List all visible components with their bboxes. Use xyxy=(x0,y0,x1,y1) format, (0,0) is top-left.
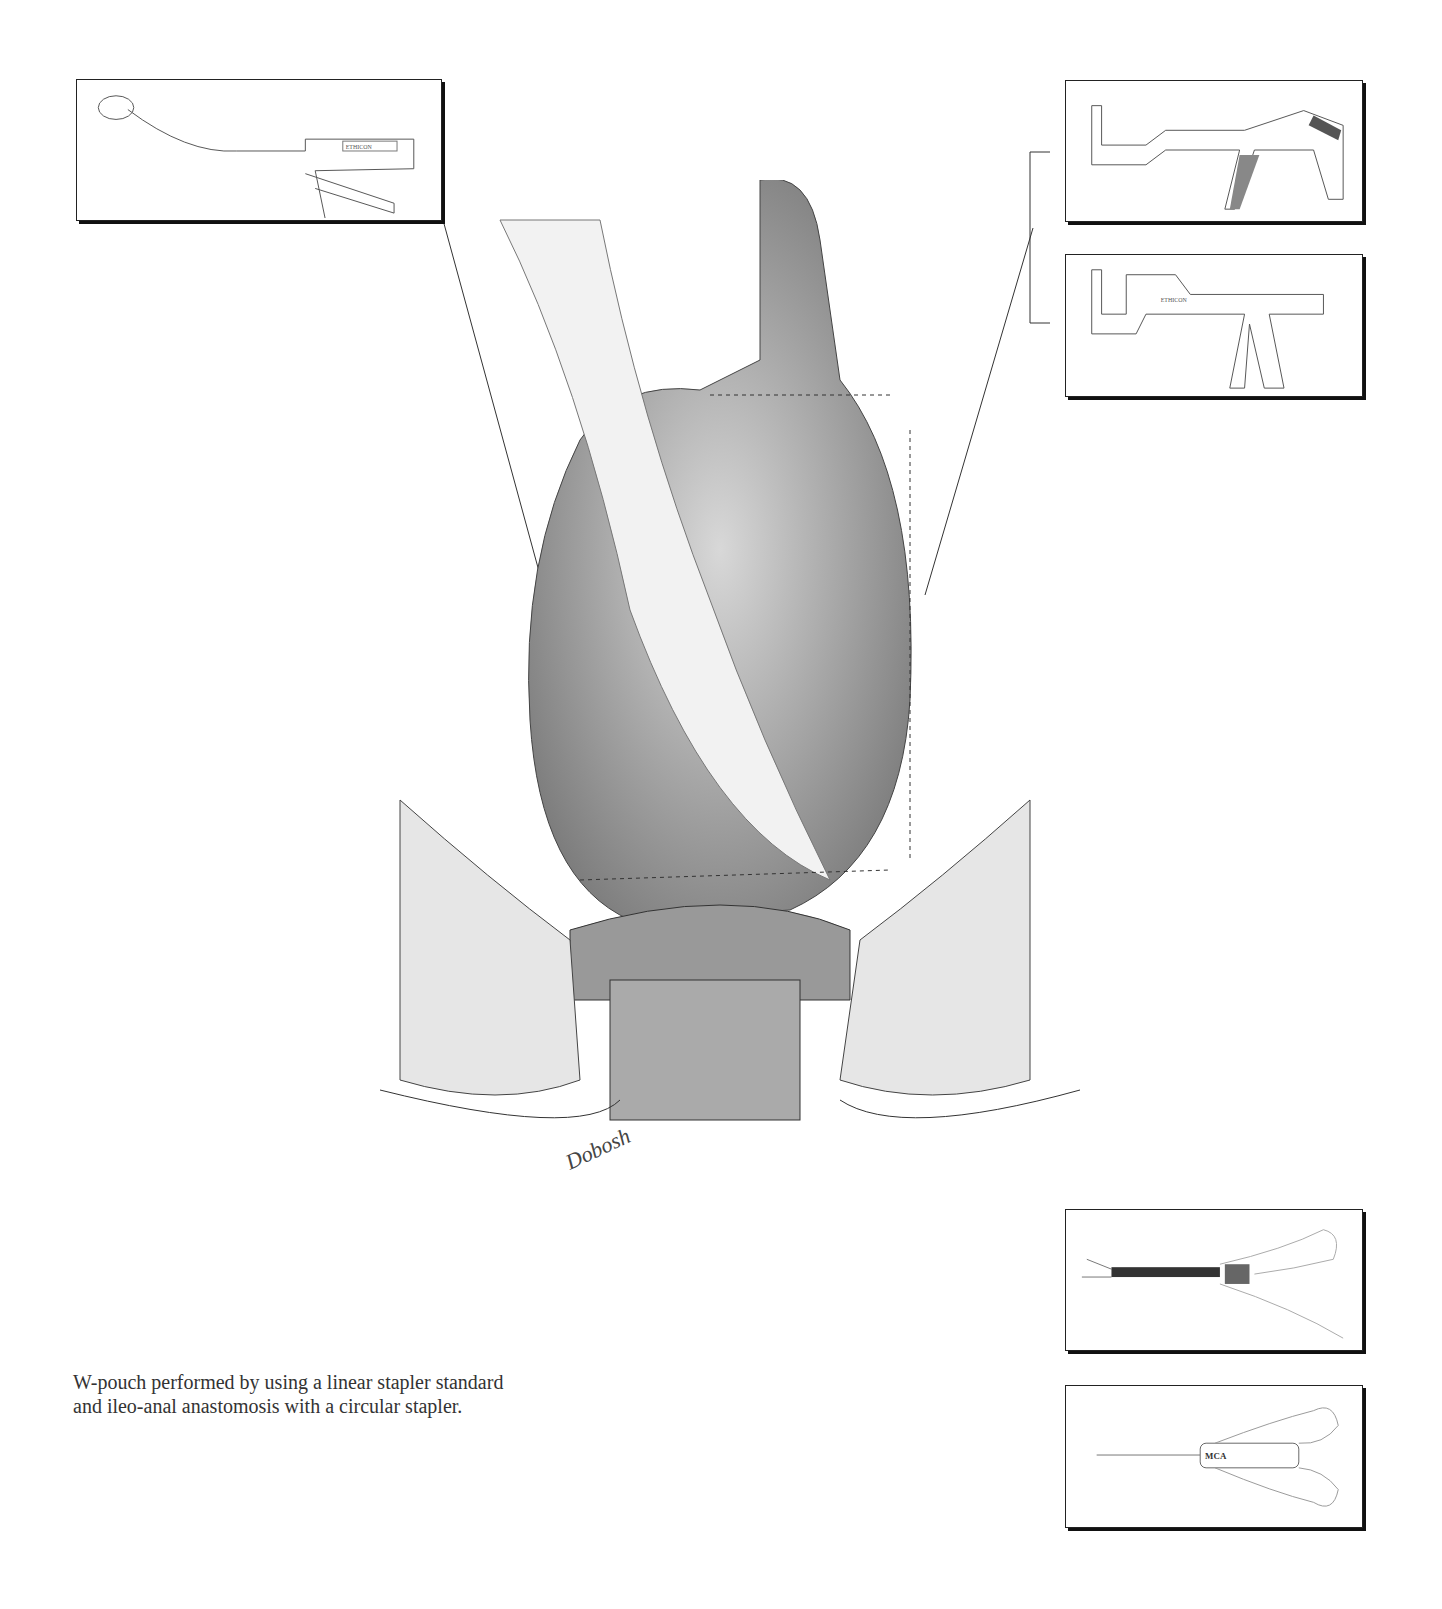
caption-line-2: and ileo-anal anastomosis with a circula… xyxy=(73,1394,633,1418)
inset-clip-applier-lc xyxy=(1065,1209,1363,1351)
clip-applier-icon: MCA xyxy=(1066,1386,1362,1527)
svg-text:ETHICON: ETHICON xyxy=(1161,297,1188,303)
clip-applier-icon xyxy=(1066,1210,1362,1350)
inset-linear-stapler-tx: ETHICON xyxy=(1065,254,1363,397)
inset-linear-stapler-tl xyxy=(1065,80,1363,222)
figure-caption: W-pouch performed by using a linear stap… xyxy=(73,1370,633,1418)
caption-line-1: W-pouch performed by using a linear stap… xyxy=(73,1370,633,1394)
linear-stapler-icon: ETHICON xyxy=(1066,255,1362,396)
w-pouch-anastomosis-illustration: Dobosh xyxy=(380,180,1080,1200)
inset-ligaclip-mca: MCA xyxy=(1065,1385,1363,1528)
svg-text:MCA: MCA xyxy=(1205,1451,1227,1461)
svg-text:Dobosh: Dobosh xyxy=(561,1123,635,1175)
svg-text:ETHICON: ETHICON xyxy=(346,144,373,150)
linear-stapler-icon xyxy=(1066,81,1362,221)
